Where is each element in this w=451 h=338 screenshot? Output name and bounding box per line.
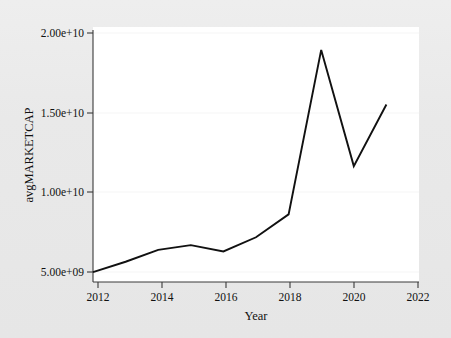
line-chart: 2.00e+10 1.50e+10 1.00e+10 5.00e+09 avgM… bbox=[0, 0, 451, 338]
x-tick-label-2018: 2018 bbox=[279, 291, 302, 303]
y-tick-label-3: 1.50e+10 bbox=[41, 107, 84, 119]
chart-figure: 2.00e+10 1.50e+10 1.00e+10 5.00e+09 avgM… bbox=[0, 0, 451, 338]
y-tick-label-2: 1.00e+10 bbox=[41, 186, 84, 198]
x-axis: 2012 2014 2016 2018 2020 2022 Year bbox=[87, 282, 430, 323]
x-tick-label-2012: 2012 bbox=[87, 291, 110, 303]
x-tick-label-2022: 2022 bbox=[407, 291, 430, 303]
x-axis-title: Year bbox=[244, 309, 268, 323]
x-tick-label-2016: 2016 bbox=[215, 291, 238, 303]
y-axis-title: avgMARKETCAP bbox=[22, 107, 36, 202]
x-tick-label-2014: 2014 bbox=[151, 291, 174, 303]
x-tick-label-2020: 2020 bbox=[343, 291, 366, 303]
y-axis: 2.00e+10 1.50e+10 1.00e+10 5.00e+09 avgM… bbox=[22, 27, 93, 282]
y-tick-label-4: 2.00e+10 bbox=[41, 27, 84, 39]
y-tick-label-1: 5.00e+09 bbox=[41, 266, 84, 278]
plot-area-background bbox=[93, 27, 419, 282]
